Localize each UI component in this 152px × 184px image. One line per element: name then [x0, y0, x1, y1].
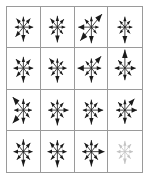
starburst-grid: [6, 6, 143, 173]
arrow-45deg: [125, 61, 131, 68]
arrow-head: [61, 25, 65, 28]
starburst-cell-r3-c1: [7, 90, 41, 131]
starburst-cell-r3-c2: [41, 90, 75, 131]
arrow-head: [89, 36, 94, 43]
arrow-head: [124, 99, 127, 104]
arrow-head: [89, 17, 92, 22]
starburst-cell-r3-c4: [108, 90, 142, 131]
arrow-head: [22, 57, 25, 62]
arrow-head: [55, 76, 59, 83]
starburst-glyph: [108, 90, 142, 130]
arrow-head: [56, 59, 59, 63]
starburst-glyph: [75, 48, 108, 88]
starburst-cell-r2-c4: [108, 48, 142, 89]
arrow-head: [98, 148, 104, 154]
arrow-45deg: [91, 14, 102, 27]
arrow-head: [118, 26, 121, 29]
starburst-cell-r1-c4: [108, 7, 142, 48]
starburst-cell-r2-c2: [41, 48, 75, 89]
arrow-head: [78, 24, 84, 30]
arrow-head: [130, 150, 134, 154]
arrow-head: [21, 76, 25, 83]
arrow-head: [123, 117, 127, 123]
starburst-glyph: [41, 7, 74, 47]
arrow-head: [14, 66, 18, 70]
starburst-cell-r1-c1: [7, 7, 41, 48]
arrow-head: [123, 36, 128, 43]
starburst-glyph: [75, 131, 108, 172]
arrow-135deg: [49, 59, 57, 69]
arrow-head: [122, 50, 128, 58]
starburst-glyph: [7, 7, 40, 47]
arrow-315deg: [91, 110, 97, 117]
arrow-head: [116, 108, 120, 112]
starburst-cell-r1-c3: [75, 7, 109, 48]
arrow-head: [29, 25, 33, 29]
arrow-head: [124, 17, 127, 22]
starburst-glyph: [108, 7, 142, 47]
arrow-head: [96, 66, 100, 70]
arrow-head: [21, 35, 25, 42]
arrow-45deg: [91, 56, 101, 68]
arrow-head: [22, 139, 26, 145]
arrow-head: [62, 66, 66, 70]
arrow-head: [62, 149, 66, 153]
arrow-315deg: [91, 151, 97, 159]
arrow-head: [132, 107, 137, 112]
arrow-head: [115, 66, 120, 70]
starburst-cell-r4-c1: [7, 131, 41, 172]
arrow-head: [14, 149, 18, 153]
arrow-head: [48, 66, 52, 70]
arrow-head: [89, 160, 93, 167]
arrow-head: [77, 65, 83, 71]
starburst-glyph: [75, 90, 108, 130]
arrow-head: [47, 149, 51, 153]
starburst-glyph: [7, 48, 40, 88]
starburst-cell-r1-c2: [41, 7, 75, 48]
arrow-head: [82, 149, 86, 153]
arrow-head: [28, 149, 32, 153]
arrow-315deg: [91, 68, 97, 75]
starburst-cell-r4-c3: [75, 131, 109, 172]
arrow-head: [55, 160, 59, 167]
arrow-225deg: [119, 68, 125, 75]
arrow-315deg: [57, 110, 63, 117]
arrow-head: [123, 158, 127, 164]
starburst-glyph: [7, 131, 40, 172]
arrow-head: [123, 75, 127, 80]
arrow-225deg: [80, 27, 91, 41]
arrow-head: [28, 108, 32, 112]
arrow-head: [89, 99, 92, 104]
starburst-cell-r2-c3: [75, 48, 109, 89]
arrow-315deg: [23, 68, 29, 75]
arrow-head: [14, 108, 18, 112]
starburst-glyph: [41, 131, 74, 172]
arrow-head: [117, 150, 121, 154]
arrow-225deg: [85, 68, 91, 75]
starburst-glyph: [108, 131, 142, 172]
arrow-head: [131, 66, 136, 71]
starburst-glyph: [41, 90, 74, 130]
starburst-glyph: [75, 7, 108, 47]
arrow-head: [124, 141, 127, 146]
arrow-head: [29, 66, 33, 70]
starburst-cell-r2-c1: [7, 48, 41, 89]
arrow-head: [89, 140, 92, 145]
arrow-315deg: [125, 68, 131, 75]
starburst-glyph: [108, 48, 142, 88]
starburst-cell-r4-c2: [41, 131, 75, 172]
arrow-head: [55, 16, 58, 21]
arrow-315deg: [57, 68, 63, 75]
starburst-glyph: [7, 90, 40, 130]
arrow-head: [21, 160, 25, 167]
arrow-head: [129, 26, 132, 29]
arrow-head: [55, 118, 59, 125]
arrow-head: [89, 59, 92, 63]
arrow-head: [21, 117, 25, 123]
arrow-head: [15, 25, 19, 29]
arrow-head: [55, 36, 59, 43]
arrow-head: [56, 99, 59, 104]
arrow-head: [95, 26, 98, 29]
arrow-head: [89, 76, 93, 83]
arrow-head: [63, 107, 68, 112]
